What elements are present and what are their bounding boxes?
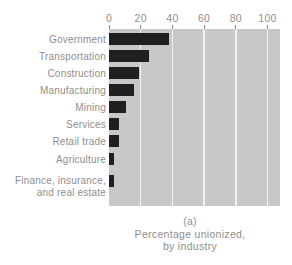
bar-government bbox=[109, 33, 169, 45]
subfigure-label: (a) bbox=[90, 215, 290, 228]
tick-mark-100 bbox=[267, 25, 268, 29]
tick-label-0: 0 bbox=[94, 12, 124, 24]
tick-mark-0 bbox=[109, 25, 110, 29]
gridline-40 bbox=[172, 29, 174, 206]
category-label-finance-insurance: Finance, insurance,and real estate bbox=[0, 175, 106, 198]
bar-retail-trade bbox=[109, 135, 119, 147]
bar-finance-insurance-and-real-estate bbox=[109, 175, 114, 187]
union-membership-figure: 020406080100 GovernmentTransportationCon… bbox=[0, 0, 292, 265]
category-label-manufacturing: Manufacturing bbox=[0, 85, 106, 97]
category-label-government: Government bbox=[0, 34, 106, 46]
category-label-services: Services bbox=[0, 119, 106, 131]
bar-agriculture bbox=[109, 153, 114, 165]
tick-label-40: 40 bbox=[157, 12, 187, 24]
bar-mining bbox=[109, 101, 126, 113]
category-label-construction: Construction bbox=[0, 68, 106, 80]
category-label-retail-trade: Retail trade bbox=[0, 136, 106, 148]
tick-mark-20 bbox=[140, 25, 141, 29]
bar-manufacturing bbox=[109, 84, 134, 96]
tick-mark-60 bbox=[204, 25, 205, 29]
tick-label-20: 20 bbox=[126, 12, 156, 24]
figure-caption: (a) Percentage unionized, by industry bbox=[90, 215, 290, 253]
gridline-80 bbox=[235, 29, 237, 206]
tick-mark-80 bbox=[235, 25, 236, 29]
tick-label-80: 80 bbox=[221, 12, 251, 24]
bar-construction bbox=[109, 67, 139, 79]
gridline-100 bbox=[267, 29, 269, 206]
category-label-agriculture: Agriculture bbox=[0, 154, 106, 166]
category-label-mining: Mining bbox=[0, 102, 106, 114]
gridline-60 bbox=[203, 29, 205, 206]
tick-label-100: 100 bbox=[253, 12, 283, 24]
tick-mark-40 bbox=[172, 25, 173, 29]
bar-transportation bbox=[109, 50, 149, 62]
tick-label-60: 60 bbox=[189, 12, 219, 24]
category-label-transportation: Transportation bbox=[0, 51, 106, 63]
caption-line-1: Percentage unionized, bbox=[90, 228, 290, 241]
bar-services bbox=[109, 118, 119, 130]
plot-area bbox=[109, 29, 280, 206]
caption-line-2: by industry bbox=[90, 240, 290, 253]
